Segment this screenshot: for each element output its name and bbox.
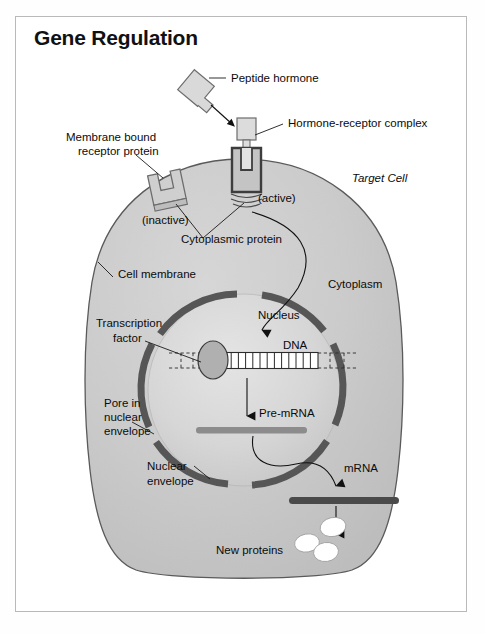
transcription-factor-shape bbox=[198, 341, 228, 379]
nucleus-body bbox=[141, 294, 343, 486]
label-transcription-factor-line1: Transcription bbox=[96, 317, 162, 329]
label-pore-line2: nuclear bbox=[104, 411, 142, 423]
label-pore-line1: Pore in bbox=[104, 397, 140, 409]
label-cytoplasmic-protein: Cytoplasmic protein bbox=[181, 233, 282, 245]
gene-regulation-diagram: Peptide hormone Hormone-receptor complex… bbox=[0, 0, 485, 634]
label-active: (active) bbox=[258, 192, 296, 204]
label-membrane-receptor-line2: receptor protein bbox=[78, 145, 159, 157]
label-membrane-receptor-line1: Membrane bound bbox=[66, 131, 156, 143]
label-cytoplasm: Cytoplasm bbox=[328, 278, 382, 290]
pre-mrna-bar bbox=[196, 427, 307, 434]
label-nuclear-envelope-line2: envelope bbox=[147, 475, 194, 487]
label-pre-mrna: Pre-mRNA bbox=[259, 407, 315, 419]
label-peptide-hormone: Peptide hormone bbox=[231, 72, 319, 84]
leader-membrane-receptor bbox=[136, 155, 163, 178]
hormone-binding-arrow bbox=[211, 105, 232, 124]
label-transcription-factor-line2: factor bbox=[113, 332, 142, 344]
peptide-hormone-shape bbox=[178, 70, 223, 114]
label-cell-membrane: Cell membrane bbox=[118, 268, 196, 280]
label-pore-line3: envelope bbox=[104, 425, 151, 437]
active-receptor-notch bbox=[241, 148, 252, 170]
label-new-proteins: New proteins bbox=[216, 544, 283, 556]
label-dna: DNA bbox=[283, 339, 308, 351]
label-inactive: (inactive) bbox=[142, 214, 189, 226]
label-nucleus: Nucleus bbox=[258, 309, 300, 321]
bound-hormone-head bbox=[237, 118, 256, 140]
mrna-bar bbox=[289, 497, 399, 504]
label-hormone-receptor-complex: Hormone-receptor complex bbox=[288, 117, 428, 129]
label-target-cell: Target Cell bbox=[352, 172, 408, 184]
label-nuclear-envelope-line1: Nuclear bbox=[147, 460, 187, 472]
figure-root: Gene Regulation bbox=[0, 0, 485, 634]
leader-hormone-receptor-complex bbox=[255, 124, 283, 135]
label-mrna: mRNA bbox=[344, 462, 378, 474]
